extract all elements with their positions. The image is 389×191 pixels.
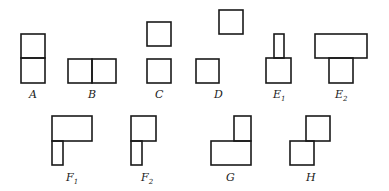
figure-h-cell-0 (306, 116, 330, 141)
figure-label-h: H (305, 171, 316, 184)
figure-label-a: A (28, 88, 37, 101)
figure-h: H (290, 116, 330, 184)
figure-label-subscript: 1 (74, 178, 78, 186)
figure-h-cell-1 (290, 141, 314, 165)
figure-c-cell-0 (147, 22, 171, 46)
figure-label-b: B (87, 88, 96, 101)
figure-label-e1: E1 (272, 88, 286, 103)
figure-label-f2: F2 (140, 171, 154, 186)
figure-e2-cell-1 (329, 58, 353, 83)
figure-f1-cell-1 (52, 141, 63, 165)
figure-b: B (68, 59, 116, 101)
polyomino-figure-diagram: ABCDE1E2F1F2GH (0, 0, 389, 191)
figure-c-cell-1 (147, 59, 171, 83)
figure-f1: F1 (52, 116, 92, 186)
figure-label-g: G (226, 171, 235, 184)
figure-e2: E2 (315, 34, 367, 103)
figure-a: A (21, 34, 45, 101)
figure-f2-cell-0 (131, 116, 156, 141)
figure-c: C (147, 22, 171, 101)
figure-e1-cell-1 (266, 58, 291, 83)
figure-b-cell-0 (68, 59, 92, 83)
figure-b-cell-1 (92, 59, 116, 83)
figure-label-f1: F1 (65, 171, 78, 186)
figure-e1: E1 (266, 34, 291, 103)
figure-g-cell-1 (211, 141, 251, 165)
figure-d-cell-0 (196, 59, 219, 83)
figure-a-cell-1 (21, 58, 45, 83)
figure-label-subscript: 2 (342, 95, 348, 103)
figure-label-d: D (213, 88, 223, 101)
figure-e2-cell-0 (315, 34, 367, 58)
figure-d-cell-1 (219, 10, 243, 34)
figure-g-cell-0 (234, 116, 251, 141)
figure-f1-cell-0 (52, 116, 92, 141)
figure-label-subscript: 1 (281, 95, 285, 103)
figure-label-c: C (155, 88, 164, 101)
figure-g: G (211, 116, 251, 184)
figure-f2: F2 (131, 116, 156, 186)
figure-a-cell-0 (21, 34, 45, 58)
figure-label-e2: E2 (334, 88, 348, 103)
figure-d: D (196, 10, 243, 101)
figure-e1-cell-0 (274, 34, 284, 58)
figure-f2-cell-1 (131, 141, 142, 165)
figure-label-subscript: 2 (148, 178, 154, 186)
